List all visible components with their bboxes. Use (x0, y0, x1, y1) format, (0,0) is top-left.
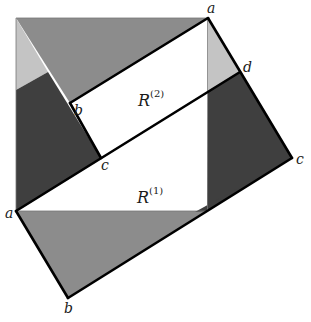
label-c-right: c (296, 151, 304, 167)
label-a-top: a (207, 0, 215, 16)
bottom-medium-gray-triangle (16, 211, 207, 298)
right-dark-region (207, 72, 292, 211)
label-b-inner: b (74, 102, 83, 118)
label-d: d (243, 59, 252, 75)
label-R2-sup: (2) (150, 88, 164, 99)
label-R2-base: R (137, 91, 150, 110)
label-b-bottom: b (64, 300, 73, 316)
label-R1-base: R (136, 188, 149, 207)
label-R1-sup: (1) (149, 185, 163, 196)
pythagorean-dissection-diagram: a d c b c a b R (2) R (1) (0, 0, 311, 322)
label-c-inner: c (101, 157, 109, 173)
label-a-left: a (5, 205, 13, 221)
